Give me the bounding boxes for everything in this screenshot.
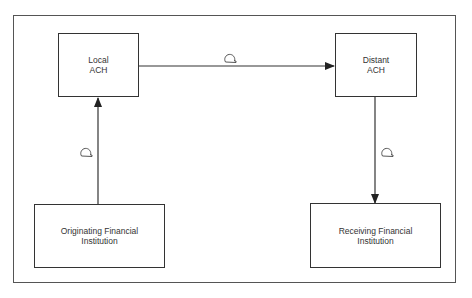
node-originating-financial-institution: Originating Financial Institution bbox=[34, 204, 165, 268]
magnetic-tape-icon bbox=[225, 54, 236, 62]
node-label-line1: Originating Financial bbox=[61, 226, 138, 236]
node-label-line2: ACH bbox=[363, 65, 389, 75]
node-label-line2: Institution bbox=[61, 236, 138, 246]
node-label-line1: Distant bbox=[363, 55, 389, 65]
node-label-line1: Local bbox=[88, 55, 108, 65]
magnetic-tape-icon bbox=[382, 148, 393, 156]
node-local-ach: Local ACH bbox=[58, 33, 139, 97]
node-label-line1: Receiving Financial bbox=[339, 226, 413, 236]
node-label-line2: ACH bbox=[88, 65, 108, 75]
magnetic-tape-icon bbox=[81, 148, 92, 156]
node-label-line2: Institution bbox=[339, 236, 413, 246]
node-receiving-financial-institution: Receiving Financial Institution bbox=[310, 203, 441, 268]
node-distant-ach: Distant ACH bbox=[335, 33, 417, 97]
